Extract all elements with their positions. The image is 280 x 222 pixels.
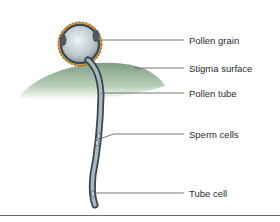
bottom-divider [0,215,280,216]
label-sperm-cells: Sperm cells [189,129,239,140]
diagram-illustration [0,0,280,222]
sperm-cell [98,133,101,139]
label-stigma-surface: Stigma surface [189,63,252,74]
label-pollen-grain: Pollen grain [189,35,239,46]
pollen-tube-diagram: Pollen grain Stigma surface Pollen tube … [0,0,280,222]
label-pollen-tube: Pollen tube [189,88,237,99]
label-tube-cell: Tube cell [189,188,227,199]
tube-cell-nucleus [92,191,95,197]
pollen-grain-shape [61,25,99,63]
sperm-cell [96,140,99,146]
